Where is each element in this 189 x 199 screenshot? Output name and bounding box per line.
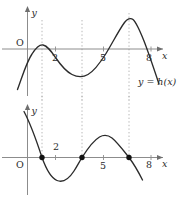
function-label-h: y = h(x) <box>138 76 176 87</box>
y-axis-label-bottom: y <box>31 105 38 116</box>
x-tick-label-5-top: 5 <box>100 52 106 63</box>
x-axis-label-top: x <box>162 50 168 61</box>
x-axis-label-bottom: x <box>162 158 168 169</box>
zero-marker-x1 <box>39 155 44 160</box>
figure-two-graphs: O 2 5 8 y x y = h(x) <box>0 0 189 199</box>
x-tick-label-8-top: 8 <box>146 52 152 63</box>
graph-of-f-svg: O 2 5 8 y x <box>0 96 189 199</box>
origin-label-top: O <box>16 37 24 48</box>
zero-marker-x3 <box>79 155 84 160</box>
y-axis-arrow-top <box>25 6 30 12</box>
graph-of-f-panel: O 2 5 8 y x y = f(x) <box>0 96 189 199</box>
x-tick-label-2-top: 2 <box>52 52 58 63</box>
x-tick-label-2-bottom: 2 <box>53 141 59 152</box>
origin-label-bottom: O <box>16 159 24 170</box>
x-tick-label-5-bottom: 5 <box>100 160 106 171</box>
y-axis-label-top: y <box>31 7 38 18</box>
y-axis-arrow-bottom <box>25 104 30 110</box>
x-tick-label-8-bottom: 8 <box>146 159 152 170</box>
zero-marker-x65 <box>126 155 131 160</box>
graph-of-h-panel: O 2 5 8 y x y = h(x) <box>0 0 189 100</box>
